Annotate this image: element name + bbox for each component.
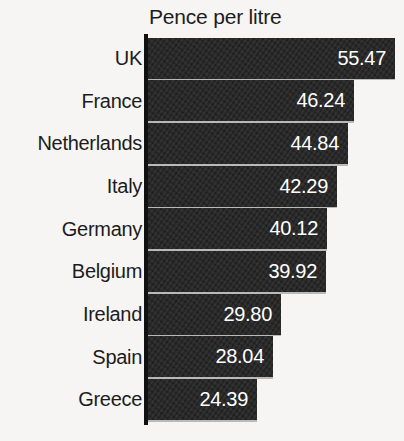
bar: 40.12	[148, 208, 327, 249]
category-label: Netherlands	[37, 122, 142, 165]
bar-value-label: 29.80	[223, 294, 272, 335]
bar-value-label: 42.29	[279, 166, 328, 207]
bar: 29.80	[148, 294, 281, 335]
bar: 42.29	[148, 166, 337, 207]
bar-value-label: 55.47	[337, 38, 386, 79]
bar-row: France46.24	[0, 80, 404, 123]
category-label: Germany	[62, 208, 142, 251]
category-label: Ireland	[83, 293, 142, 336]
bar-value-label: 44.84	[290, 123, 339, 164]
bar: 46.24	[148, 80, 354, 121]
bar-row: Belgium39.92	[0, 250, 404, 293]
bar: 44.84	[148, 123, 348, 164]
bar-row: Spain28.04	[0, 336, 404, 379]
bar-separator	[148, 420, 257, 421]
plot-area: UK55.47France46.24Netherlands44.84Italy4…	[0, 37, 404, 421]
category-label: Spain	[92, 336, 142, 379]
bar: 55.47	[148, 38, 395, 79]
category-label: UK	[115, 37, 142, 80]
bar-row: Ireland29.80	[0, 293, 404, 336]
bar-row: Italy42.29	[0, 165, 404, 208]
category-label: Greece	[78, 378, 142, 421]
bar-value-label: 39.92	[268, 251, 317, 292]
chart-title: Pence per litre	[149, 4, 281, 30]
category-label: Belgium	[72, 250, 142, 293]
bar-value-label: 28.04	[215, 336, 264, 377]
bar-value-label: 46.24	[296, 80, 345, 121]
bar-row: Greece24.39	[0, 378, 404, 421]
bar: 39.92	[148, 251, 326, 292]
bar-row: Germany40.12	[0, 208, 404, 251]
category-label: Italy	[107, 165, 142, 208]
category-label: France	[82, 80, 142, 123]
bar-row: UK55.47	[0, 37, 404, 80]
bar-value-label: 24.39	[199, 379, 248, 420]
bar-value-label: 40.12	[269, 208, 318, 249]
bar-chart: Pence per litre UK55.47France46.24Nether…	[0, 0, 404, 441]
bar: 28.04	[148, 336, 273, 377]
bar: 24.39	[148, 379, 257, 420]
bar-row: Netherlands44.84	[0, 122, 404, 165]
